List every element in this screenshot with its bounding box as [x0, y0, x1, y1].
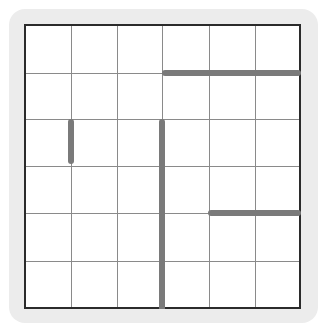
wall-vertical-long	[159, 119, 165, 309]
wall-horizontal-lower	[208, 210, 301, 216]
wall-horizontal-top	[162, 70, 301, 76]
game-board[interactable]	[24, 24, 301, 309]
wall-vertical-short	[68, 119, 74, 164]
